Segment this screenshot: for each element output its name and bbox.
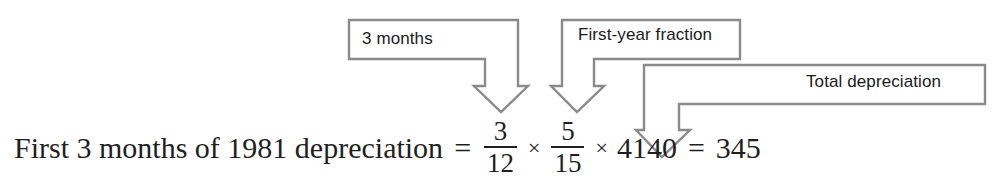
- equation: First 3 months of 1981 depreciation = 3 …: [14, 118, 761, 179]
- equation-factor-value: 4140: [617, 133, 677, 163]
- equation-multiply-sign-1: ×: [528, 137, 540, 159]
- fraction-denominator: 15: [551, 149, 584, 177]
- fraction-numerator: 5: [558, 117, 578, 145]
- figure-canvas: 3 months First-year fraction Total depre…: [0, 0, 1002, 190]
- callout-label-first-year-fraction: First-year fraction: [578, 25, 712, 45]
- equation-lead-text: First 3 months of 1981 depreciation: [14, 133, 443, 163]
- fraction-five-fifteenths: 5 15: [551, 117, 584, 178]
- equation-equals-sign: =: [454, 133, 471, 163]
- fraction-denominator: 12: [484, 149, 517, 177]
- callout-label-three-months: 3 months: [362, 29, 433, 49]
- equation-multiply-sign-2: ×: [595, 137, 607, 159]
- equation-result-value: 345: [716, 133, 761, 163]
- callout-label-total-depreciation: Total depreciation: [806, 72, 941, 92]
- fraction-numerator: 3: [491, 117, 511, 145]
- fraction-three-twelfths: 3 12: [484, 117, 517, 178]
- equation-equals-sign-2: =: [688, 133, 705, 163]
